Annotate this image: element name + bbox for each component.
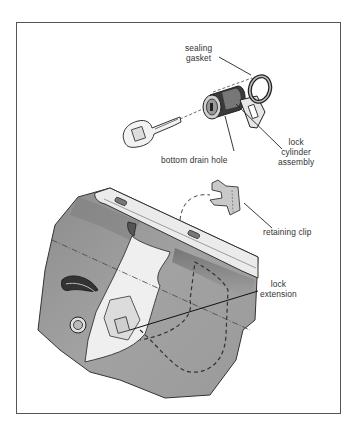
label-sealing-gasket: sealing gasket [185,43,212,63]
label-lock-cylinder-line1: lock [278,137,314,147]
label-retaining-clip: retaining clip [263,227,311,237]
diagram-artwork [0,0,358,428]
label-lock-extension-line2: extension [260,289,297,299]
label-lock-extension-line1: lock [260,279,297,289]
label-sealing-gasket-line1: sealing [185,43,212,53]
label-sealing-gasket-line2: gasket [185,53,212,63]
retaining-clip-illustration [210,180,240,215]
label-lock-cylinder-line2: cylinder [278,147,314,157]
door-panel-illustration [38,188,258,398]
label-bottom-drain-hole: bottom drain hole [161,155,227,165]
label-lock-extension: lock extension [260,279,297,299]
label-lock-cylinder-line3: assembly [278,157,314,167]
key-illustration [123,117,181,147]
lock-cylinder-illustration [203,86,265,128]
label-lock-cylinder-assembly: lock cylinder assembly [278,137,314,167]
